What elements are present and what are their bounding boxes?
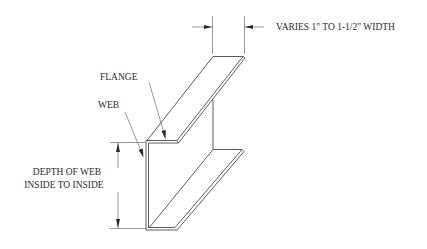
arrowhead-icon	[245, 25, 253, 29]
width-dimension: VARIES 1" TO 1-1/2" WIDTH	[192, 16, 395, 54]
depth-label-line2: INSIDE TO INSIDE	[24, 180, 104, 190]
depth-label-line1: DEPTH OF WEB	[33, 167, 101, 177]
depth-dimension: DEPTH OF WEB INSIDE TO INSIDE	[24, 143, 146, 229]
bottom-flange	[146, 150, 244, 231]
diagram-canvas: VARIES 1" TO 1-1/2" WIDTH	[0, 0, 427, 249]
width-note-label: VARIES 1" TO 1-1/2" WIDTH	[276, 22, 395, 32]
web	[146, 100, 213, 230]
flange-label: FLANGE	[100, 72, 138, 82]
arrowhead-icon	[162, 130, 166, 140]
arrowhead-icon	[139, 149, 144, 158]
channel-diagram: VARIES 1" TO 1-1/2" WIDTH	[0, 0, 427, 249]
top-flange	[147, 57, 245, 144]
arrowhead-icon	[204, 25, 212, 29]
arrowhead-up-icon	[116, 143, 120, 152]
arrowhead-down-icon	[116, 219, 120, 228]
web-label: WEB	[98, 100, 119, 110]
web-callout: WEB	[98, 100, 144, 158]
